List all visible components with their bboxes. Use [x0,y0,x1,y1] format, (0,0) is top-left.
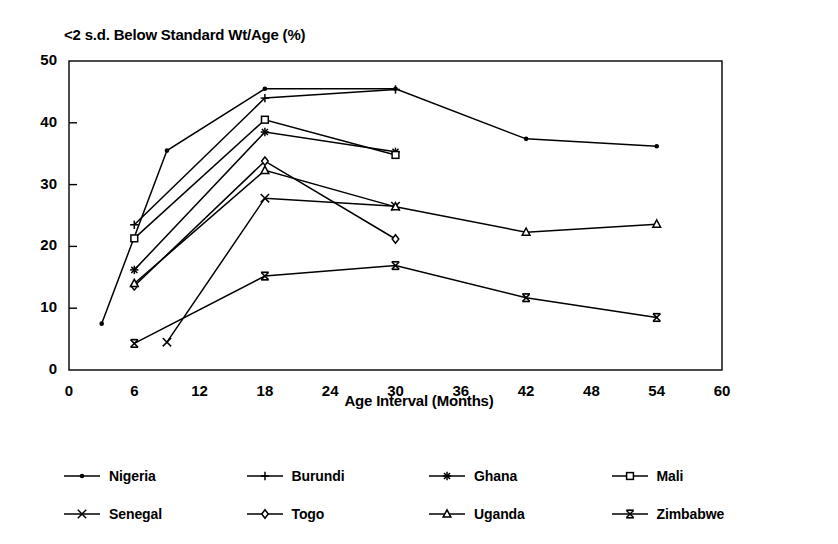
y-axis-tick-label: 30 [17,175,57,192]
series-senegal [163,194,400,346]
data-point-marker-diamond [392,235,399,243]
x-axis-title: Age Interval (Months) [0,392,838,409]
chart-legend: NigeriaBurundiGhanaMaliSenegalTogoUganda… [62,468,792,522]
legend-entry-burundi[interactable]: Burundi [245,468,428,484]
plot-area [0,0,838,544]
y-axis-tick-label: 10 [17,298,57,315]
legend-label: Togo [292,506,325,522]
legend-marker-plus-icon [245,468,285,484]
data-point-marker-cross [163,338,171,346]
data-point-marker-plus [391,85,399,93]
data-point-marker-x-bar [131,340,139,348]
legend-marker-square-icon [610,468,650,484]
data-point-marker-dot [80,474,85,479]
y-axis-tick-label: 0 [17,360,57,377]
data-point-marker-diamond [261,510,268,518]
legend-marker-dot-icon [62,468,102,484]
series-uganda [130,166,660,286]
legend-label: Senegal [109,506,162,522]
data-point-marker-dot [263,87,268,92]
data-point-marker-triangle [653,220,661,227]
y-axis-tick-label: 40 [17,113,57,130]
series-nigeria [99,87,659,326]
data-point-marker-square [626,473,633,480]
legend-entry-senegal[interactable]: Senegal [62,506,245,522]
data-point-marker-dot [99,321,104,326]
chart-title: <2 s.d. Below Standard Wt/Age (%) [64,26,305,43]
data-point-marker-square [131,235,138,242]
data-point-marker-triangle [443,510,451,517]
data-point-marker-plus [260,472,268,480]
legend-marker-x-bar-icon [610,506,650,522]
legend-marker-diamond-icon [245,506,285,522]
series-line [134,161,395,286]
legend-label: Uganda [474,506,525,522]
legend-marker-asterisk-icon [427,468,467,484]
data-point-marker-triangle [261,166,269,173]
legend-entry-ghana[interactable]: Ghana [427,468,610,484]
legend-entry-mali[interactable]: Mali [610,468,793,484]
legend-marker-cross-icon [62,506,102,522]
series-zimbabwe [131,262,661,347]
y-axis-tick-label: 20 [17,236,57,253]
series-togo [131,157,399,290]
legend-entry-zimbabwe[interactable]: Zimbabwe [610,506,793,522]
legend-entry-togo[interactable]: Togo [245,506,428,522]
legend-label: Zimbabwe [657,506,725,522]
series-line [102,89,657,324]
legend-label: Burundi [292,468,345,484]
chart-figure: <2 s.d. Below Standard Wt/Age (%) 010203… [0,0,838,544]
data-point-marker-square [392,152,399,159]
plot-frame [69,61,722,370]
legend-entry-uganda[interactable]: Uganda [427,506,610,522]
legend-label: Mali [657,468,684,484]
data-point-marker-dot [524,137,529,142]
y-axis-tick-label: 50 [17,51,57,68]
data-point-marker-asterisk [443,472,451,480]
data-point-marker-triangle [522,228,530,235]
legend-label: Nigeria [109,468,156,484]
series-line [134,120,395,239]
data-point-marker-asterisk [130,266,138,274]
legend-label: Ghana [474,468,517,484]
data-point-marker-dot [654,144,659,149]
data-point-marker-square [262,116,269,123]
series-line [167,198,396,342]
legend-entry-nigeria[interactable]: Nigeria [62,468,245,484]
data-point-marker-dot [165,148,170,153]
data-point-marker-asterisk [261,128,269,136]
series-line [134,266,656,344]
legend-marker-triangle-icon [427,506,467,522]
